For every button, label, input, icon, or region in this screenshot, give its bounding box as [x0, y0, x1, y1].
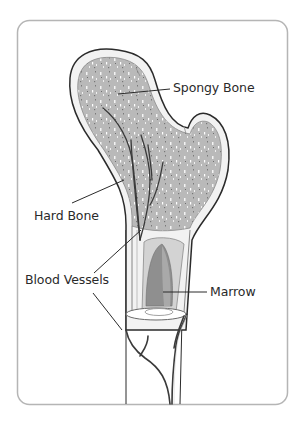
- label-hard-bone: Hard Bone: [34, 210, 99, 223]
- label-blood-vessels: Blood Vessels: [25, 274, 109, 287]
- label-marrow: Marrow: [210, 286, 256, 299]
- femur-diagram: Spongy Bone Hard Bone Blood Vessels Marr…: [0, 0, 305, 430]
- cut-section-inner: [145, 309, 173, 316]
- label-spongy-bone: Spongy Bone: [173, 82, 254, 95]
